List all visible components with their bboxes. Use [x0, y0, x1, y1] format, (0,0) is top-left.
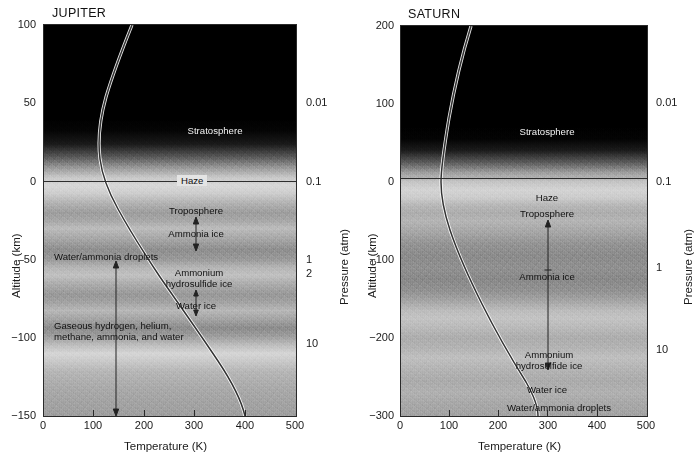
jupiter-xtick-mark-300 — [194, 410, 195, 416]
jupiter-xtick-mark-200 — [144, 410, 145, 416]
saturn-label-troposphere: Troposphere — [520, 208, 574, 219]
saturn-xtick-400: 400 — [577, 420, 617, 431]
jupiter-xtick-mark-400 — [245, 410, 246, 416]
saturn-y2-axis-title: Pressure (atm) — [682, 229, 694, 305]
saturn-ptick-001: 0.01 — [656, 97, 677, 108]
jupiter-y2-axis-title: Pressure (atm) — [338, 229, 350, 305]
jupiter-xtick-400: 400 — [225, 420, 265, 431]
saturn-ptick-1: 1 — [656, 262, 662, 273]
jupiter-ytick-m100: −100 — [0, 332, 36, 343]
saturn-label-water-ammonia-droplets: Water/ammonia droplets — [507, 402, 611, 413]
jupiter-xtick-100: 100 — [73, 420, 113, 431]
saturn-xtick-mark-300 — [547, 410, 548, 416]
saturn-xtick-100: 100 — [429, 420, 469, 431]
saturn-label-ammonia-ice: Ammonia ice — [519, 271, 574, 282]
saturn-label-ammonium-hydrosulfide-ice: Ammonium hydrosulfide ice — [516, 349, 583, 372]
jupiter-ptick-1: 1 — [306, 254, 312, 265]
jupiter-ptick-01: 0.1 — [306, 176, 321, 187]
saturn-xtick-mark-200 — [498, 410, 499, 416]
saturn-xtick-mark-400 — [597, 410, 598, 416]
jupiter-xtick-500: 500 — [275, 420, 315, 431]
saturn-xtick-500: 500 — [626, 420, 666, 431]
saturn-altitude-zero-line — [401, 178, 647, 179]
saturn-plot-area: Stratosphere Haze Troposphere Ammonia ic… — [400, 25, 648, 417]
jupiter-panel: JUPITER Altitude (km) Pressure (atm) Tem… — [0, 0, 350, 461]
saturn-x-axis-title: Temperature (K) — [478, 440, 561, 452]
saturn-label-haze: Haze — [536, 192, 558, 203]
saturn-ptick-01: 0.1 — [656, 176, 671, 187]
jupiter-x-axis-title: Temperature (K) — [124, 440, 207, 452]
saturn-ytick-m100: −100 — [354, 254, 394, 265]
saturn-ytick-0: 0 — [354, 176, 394, 187]
jupiter-xtick-300: 300 — [174, 420, 214, 431]
jupiter-ptick-001: 0.01 — [306, 97, 327, 108]
saturn-title: SATURN — [408, 7, 460, 21]
jupiter-ytick-100: 100 — [0, 19, 36, 30]
jupiter-title: JUPITER — [52, 6, 106, 20]
jupiter-xtick-mark-100 — [93, 410, 94, 416]
saturn-xtick-0: 0 — [380, 420, 420, 431]
jupiter-ytick-m50: ‒50 — [0, 254, 36, 265]
jupiter-label-troposphere: Troposphere — [169, 205, 223, 216]
saturn-xtick-mark-100 — [449, 410, 450, 416]
jupiter-ptick-10: 10 — [306, 338, 318, 349]
saturn-ytick-100: 100 — [354, 98, 394, 109]
saturn-ytick-m200: −200 — [354, 332, 394, 343]
jupiter-label-water-ammonia-droplets: Water/ammonia droplets — [54, 251, 158, 262]
jupiter-ptick-2: 2 — [306, 268, 312, 279]
saturn-y-axis-title: Altitude (km) — [366, 233, 378, 298]
jupiter-temperature-curve — [44, 25, 296, 416]
saturn-xtick-300: 300 — [528, 420, 568, 431]
saturn-xtick-200: 200 — [478, 420, 518, 431]
saturn-label-water-ice: Water ice — [527, 384, 567, 395]
jupiter-haze-line — [44, 181, 296, 182]
jupiter-label-haze: Haze — [177, 175, 207, 186]
jupiter-ytick-0: 0 — [0, 176, 36, 187]
jupiter-label-water-ice: Water ice — [176, 300, 216, 311]
saturn-panel: SATURN Altitude (km) Pressure (atm) Temp… — [350, 0, 693, 461]
saturn-label-stratosphere: Stratosphere — [520, 126, 575, 137]
jupiter-xtick-0: 0 — [23, 420, 63, 431]
saturn-ytick-200: 200 — [354, 20, 394, 31]
saturn-ptick-10: 10 — [656, 344, 668, 355]
jupiter-xtick-200: 200 — [124, 420, 164, 431]
jupiter-y-axis-title: Altitude (km) — [10, 233, 22, 298]
jupiter-plot-area: Stratosphere Haze Troposphere Ammonia ic… — [43, 24, 297, 417]
jupiter-label-ammonium-hydrosulfide-ice: Ammonium hydrosulfide ice — [166, 267, 233, 290]
jupiter-label-gaseous-mixture: Gaseous hydrogen, helium, methane, ammon… — [54, 320, 184, 343]
jupiter-ytick-50: 50 — [0, 97, 36, 108]
jupiter-label-ammonia-ice: Ammonia ice — [168, 228, 223, 239]
jupiter-label-stratosphere: Stratosphere — [188, 125, 243, 136]
